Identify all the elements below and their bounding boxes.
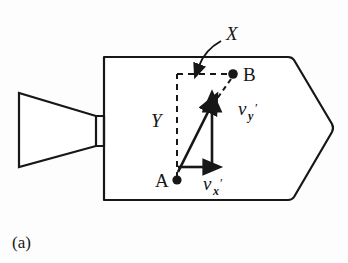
nozzle-outline <box>19 93 96 167</box>
figure-container: X Y A B v y ′ v x ′ (a) <box>0 0 348 263</box>
rocket-body-outline <box>104 57 333 200</box>
velocity-x-base: v <box>203 173 212 194</box>
vector-component-corner <box>205 167 212 168</box>
point-a-label: A <box>155 170 169 191</box>
velocity-x-sub: x <box>212 184 219 198</box>
axis-x-label: X <box>225 23 239 44</box>
figure-svg: X Y A B v y ′ v x ′ (a) <box>0 0 348 263</box>
velocity-y-prime: ′ <box>255 100 258 115</box>
velocity-y-base: v <box>238 98 247 119</box>
point-b-label: B <box>243 64 256 85</box>
figure-caption: (a) <box>12 233 31 252</box>
velocity-y-sub: y <box>246 109 254 123</box>
point-a-dot <box>172 175 181 184</box>
velocity-x-prime: ′ <box>220 175 223 190</box>
point-b-dot <box>228 69 238 79</box>
